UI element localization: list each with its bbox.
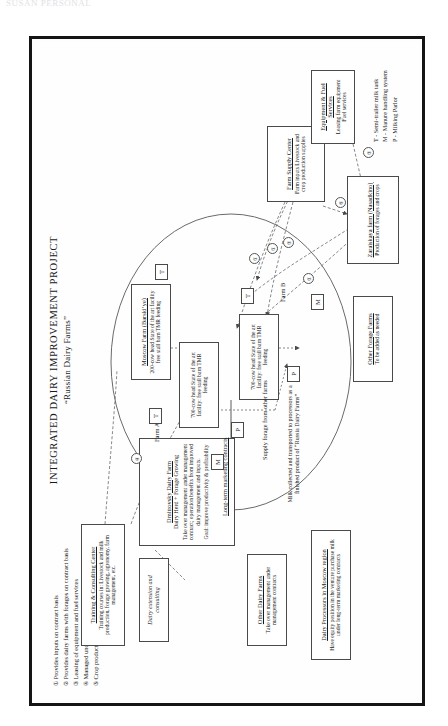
other-forage-body: To be added as needed: [374, 314, 380, 365]
farm-a-body: 700-cow head State of the art facility: …: [190, 346, 209, 424]
unit-m-farm-a: M: [211, 454, 224, 470]
marker-1-supply-a: ①: [249, 253, 260, 264]
zaraiskaya-title: Zaraiskaya farm (Nasadkino): [366, 183, 373, 258]
marker-3-equip-forage: ③: [363, 147, 374, 158]
box-moscow-farm[interactable]: Moscow Farm (Barski’ye) 200-cow head Sta…: [131, 284, 171, 380]
dairy-processors-body: Have equity position in the venture purc…: [329, 534, 342, 656]
unit-p-farm-a: P: [231, 422, 244, 438]
marker-2-forage: ②: [303, 273, 314, 284]
key-item-p: P - Milking Parlor: [390, 70, 399, 142]
farm-supply-title: Farm Supply Center: [285, 138, 292, 190]
unit-t-farm-a: T: [149, 408, 162, 424]
box-other-dairy-farms[interactable]: Other Dairy Farms Take over management u…: [247, 554, 287, 646]
unit-p-farm-b: P: [287, 366, 300, 382]
key-list: T - Semi-trailer milk tank M - Manure ha…: [371, 70, 399, 142]
moscow-farm-title: Moscow Farm (Barski’ye): [140, 298, 147, 366]
box-farm-b-detail[interactable]: 700-cow head State of the art facility: …: [239, 314, 279, 400]
dmitrovsky-goal: Goal: improve productivity & profitabili…: [203, 444, 209, 539]
rotated-diagram-canvas: ① Provides inputs on contract basis ② Pr…: [35, 42, 419, 700]
page-title: INTEGRATED DAIRY IMPROVEMENT PROJECT “Ru…: [47, 170, 73, 550]
legend-marker-1: ①: [52, 681, 59, 686]
other-forage-title: Other Forage Farms: [366, 313, 373, 364]
page-title-line1: INTEGRATED DAIRY IMPROVEMENT PROJECT: [47, 170, 61, 550]
box-equipment-fuel-services[interactable]: Equipment & Fuel Services Leasing farm e…: [311, 70, 355, 144]
box-dairy-extension[interactable]: Dairy extension and consulting: [139, 558, 169, 642]
dmitrovsky-title: Dmitrovsky Dairy Farm: [165, 461, 172, 523]
legend-marker-4: ④: [82, 681, 89, 686]
marker-5-crop-supplies: ⑤: [335, 197, 346, 208]
marker-1-supply-b: ①: [267, 243, 278, 254]
marker-4-training: ④: [131, 453, 142, 464]
label-long-term-marketing-contracts: Long-term marketing contracts: [221, 438, 228, 516]
box-dairy-processors[interactable]: Dairy Processors in Moscow region Have e…: [311, 530, 351, 660]
legend-marker-2: ②: [62, 681, 69, 686]
legend-label-3: Leasing of equipment and fuel services: [72, 579, 79, 679]
box-farm-a-detail[interactable]: 700-cow head State of the art facility: …: [179, 342, 219, 428]
key-item-m: M - Manure handling system: [380, 70, 389, 142]
legend-item-2: ② Provides dairy farms with forages on c…: [61, 548, 71, 686]
equipment-fuel-title: Equipment & Fuel Services: [319, 74, 333, 140]
legend-marker-3: ③: [72, 681, 79, 686]
training-center-title: Training & Consulting Center: [89, 547, 96, 624]
dairy-processors-title: Dairy Processors in Moscow region: [320, 549, 327, 641]
legend-item-1: ① Provides inputs on contract basis: [51, 548, 61, 686]
page-title-line2: “Russian Dairy Farms”: [61, 170, 73, 550]
legend-item-3: ③ Leasing of equipment and fuel services: [71, 548, 81, 686]
unit-m-farm-b: M: [311, 294, 324, 310]
label-farm-a: Farm A: [153, 423, 160, 442]
unit-t-farm-b: T: [241, 288, 254, 304]
box-zaraiskaya-farm[interactable]: Zaraiskaya farm (Nasadkino) Production o…: [347, 176, 399, 264]
other-dairy-farms-body: Take over management under management co…: [265, 558, 278, 642]
legend-label-2: Provides dairy farms with forages on con…: [62, 548, 69, 679]
farm-supply-body: Farm inputs Livestock and crop productio…: [294, 130, 307, 198]
dmitrovsky-subtitle: Dairy Herd + Forage Growing: [173, 455, 180, 529]
unit-t-moscow: T: [155, 264, 168, 280]
moscow-farm-body: 200-cow head State of the art facility f…: [149, 288, 162, 376]
key-item-t: T - Semi-trailer milk tank: [371, 70, 380, 142]
box-other-forage-farms[interactable]: Other Forage Farms To be added as needed: [353, 296, 393, 382]
label-farm-b: Farm B: [279, 283, 286, 302]
equipment-fuel-body: Leasing farm equipment Fuel services: [335, 74, 348, 140]
training-center-body: Training courses in: Livestock and milk …: [98, 528, 117, 642]
label-supply-forage: Supply forage from other farms: [261, 380, 269, 460]
dairy-extension-body: Dairy extension and consulting: [147, 562, 161, 638]
box-training-consulting-center[interactable]: Training & Consulting Center Training co…: [81, 524, 125, 646]
dmitrovsky-body: Take over management under management co…: [182, 442, 201, 542]
other-dairy-farms-title: Other Dairy Farms: [256, 576, 263, 624]
marker-3-equipment: ③: [283, 237, 294, 248]
legend-marker-5: ⑤: [92, 681, 99, 686]
zaraiskaya-body: Production of forages and crops: [374, 184, 380, 255]
label-milk-collected: Milk collected and transported to proces…: [287, 384, 301, 504]
legend-label-1: Provides inputs on contract basis: [52, 595, 59, 679]
figure-canvas: ① Provides inputs on contract basis ② Pr…: [35, 42, 419, 700]
scan-header-text: SUSAN PERSONAL: [6, 0, 206, 10]
figure-page-frame: ① Provides inputs on contract basis ② Pr…: [29, 36, 425, 706]
